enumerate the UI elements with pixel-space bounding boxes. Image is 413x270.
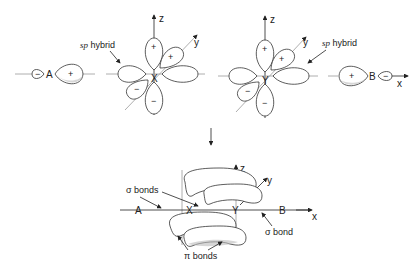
svg-text:+: +: [349, 71, 354, 81]
atom-a-label: A: [135, 205, 142, 216]
sign-label: +: [68, 69, 73, 79]
axis-z-label: z: [270, 14, 275, 25]
pi-bonds-label: π bonds: [184, 251, 218, 261]
svg-text:−: −: [245, 86, 250, 96]
atom-x-hybrid-group: z y + + − − X sp hybrid: [80, 13, 205, 115]
axis-y-label: y: [194, 37, 199, 48]
atom-y-hybrid-group: z y + + − − Y sp hybrid: [218, 14, 357, 118]
atom-b-label: B: [279, 205, 286, 216]
svg-text:−: −: [134, 84, 139, 94]
atom-a-group: − A +: [15, 64, 95, 84]
sign-label: −: [35, 69, 40, 79]
svg-text:−: −: [383, 71, 388, 81]
axis-z-label: z: [159, 13, 164, 24]
svg-text:+: +: [262, 44, 267, 54]
axis-x-label: x: [397, 78, 402, 89]
atom-a-label: A: [46, 69, 53, 80]
svg-text:−: −: [262, 98, 267, 108]
svg-text:+: +: [168, 52, 173, 62]
svg-text:+: +: [151, 42, 156, 52]
atom-x-label: X: [151, 73, 158, 84]
bonded-molecule-group: z y A X Y B x σ bonds σ bond π bonds: [120, 163, 317, 261]
sp-hybrid-label: sp hybrid: [322, 38, 357, 48]
axis-y-label: y: [303, 37, 308, 48]
sp-hybrid-label: sp hybrid: [80, 40, 115, 50]
orbital-diagram: − A + z y + + − − X sp hybrid z: [0, 0, 413, 270]
atom-y-label: Y: [232, 205, 239, 216]
atom-y-label: Y: [262, 75, 269, 86]
sigma-bond-label: σ bond: [265, 227, 293, 237]
axis-y-label: y: [267, 175, 272, 186]
atom-b-group: + B − x: [328, 66, 408, 89]
atom-b-label: B: [369, 71, 376, 82]
svg-text:+: +: [279, 54, 284, 64]
axis-x-label: x: [312, 211, 317, 222]
atom-x-label: X: [186, 205, 193, 216]
svg-text:−: −: [151, 96, 156, 106]
sigma-bonds-label: σ bonds: [126, 185, 159, 195]
